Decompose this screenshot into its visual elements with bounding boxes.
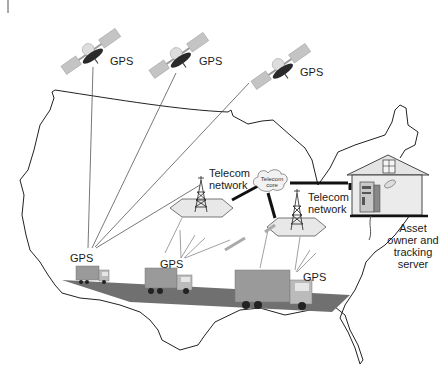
cable [369, 216, 371, 240]
us-map-outline [20, 90, 420, 364]
gps-tracking-diagram: GPS GPS GPS Telecom network Telecom netw… [0, 0, 448, 385]
server-icon [360, 182, 380, 212]
truck-gps-label: GPS [160, 258, 183, 270]
telecom-network-label: Telecom network [209, 167, 250, 191]
truck-gps-label: GPS [70, 252, 93, 264]
satellite-gps-label: GPS [300, 66, 323, 78]
server-label: Asset owner and tracking server [378, 222, 448, 270]
truck-gps-label: GPS [303, 271, 326, 283]
truck-icon [76, 266, 109, 284]
signal-beam [225, 225, 275, 250]
satellite-gps-label: GPS [110, 55, 133, 67]
telecom-network-label: Telecom network [308, 191, 349, 215]
satellite-gps-label: GPS [199, 55, 222, 67]
telecom-core-label: Telecom core [257, 176, 287, 188]
cell-tower-icon [195, 176, 207, 212]
satellite-signal-lines [88, 67, 249, 248]
cell-tower-icon [291, 189, 303, 230]
satellite-icon [59, 25, 126, 82]
house-icon [347, 155, 429, 216]
